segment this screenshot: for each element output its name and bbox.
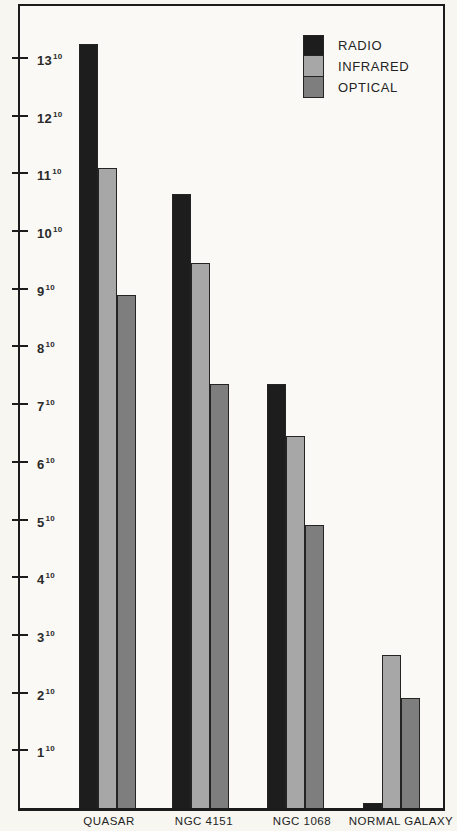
y-axis-tick-label: 410 <box>37 570 54 584</box>
legend-item-radio: RADIO <box>303 35 409 56</box>
bar-ngc1068-radio <box>267 384 286 808</box>
legend-label: OPTICAL <box>338 80 398 95</box>
y-axis-tick-label: 110 <box>37 743 54 757</box>
y-axis-tick <box>12 288 28 290</box>
bar-ngc4151-infrared <box>191 263 210 808</box>
y-axis-tick <box>12 172 28 174</box>
x-axis-label-ngc1068: NGC 1068 <box>273 815 331 827</box>
y-axis-tick <box>12 115 28 117</box>
infrared-swatch-icon <box>303 56 324 77</box>
legend-item-infrared: INFRARED <box>303 56 409 77</box>
y-axis-tick-label: 910 <box>37 282 54 296</box>
y-axis-tick <box>12 345 28 347</box>
bar-quasar-infrared <box>98 168 117 808</box>
legend-label: RADIO <box>338 38 382 53</box>
y-axis-tick-label: 810 <box>37 339 54 353</box>
bar-normal-galaxy-infrared <box>382 655 401 808</box>
y-axis-tick <box>12 576 28 578</box>
y-axis-tick-label: 710 <box>37 397 54 411</box>
optical-swatch-icon <box>303 77 324 98</box>
scanned-bar-chart-page: 1310 1210 1110 1010 910 810 710 610 510 … <box>0 0 457 831</box>
legend: RADIO INFRARED OPTICAL <box>303 35 409 98</box>
bar-ngc4151-optical <box>210 384 229 808</box>
y-axis-tick <box>12 692 28 694</box>
bar-ngc1068-optical <box>305 525 324 808</box>
x-axis-label-ngc4151: NGC 4151 <box>175 815 233 827</box>
y-axis-tick <box>12 461 28 463</box>
y-axis-tick-label: 1110 <box>37 166 61 180</box>
bar-normal-galaxy-optical <box>401 698 420 808</box>
y-axis-tick <box>12 230 28 232</box>
y-axis-tick-label: 310 <box>37 628 54 642</box>
bar-ngc1068-infrared <box>286 436 305 808</box>
y-axis-tick-label: 610 <box>37 455 54 469</box>
y-axis-tick-label: 210 <box>37 686 54 700</box>
legend-item-optical: OPTICAL <box>303 77 409 98</box>
legend-label: INFRARED <box>338 59 409 74</box>
y-axis-tick <box>12 749 28 751</box>
y-axis-tick <box>12 519 28 521</box>
y-axis-tick <box>12 57 28 59</box>
bar-quasar-radio <box>79 44 98 809</box>
x-axis-label-normal-galaxy: NORMAL GALAXY <box>349 815 454 827</box>
y-axis-tick <box>12 403 28 405</box>
y-axis-tick-label: 510 <box>37 513 54 527</box>
y-axis-tick <box>12 634 28 636</box>
radio-swatch-icon <box>303 35 324 56</box>
bar-ngc4151-radio <box>172 194 191 809</box>
y-axis-tick-label: 1010 <box>37 224 62 238</box>
y-axis-tick-label: 1310 <box>37 51 62 65</box>
x-axis-label-quasar: QUASAR <box>83 815 135 827</box>
y-axis-tick-label: 1210 <box>37 109 62 123</box>
bar-quasar-optical <box>117 295 136 809</box>
bar-normal-galaxy-radio <box>363 803 382 808</box>
plot-area: 1310 1210 1110 1010 910 810 710 610 510 … <box>18 4 445 811</box>
